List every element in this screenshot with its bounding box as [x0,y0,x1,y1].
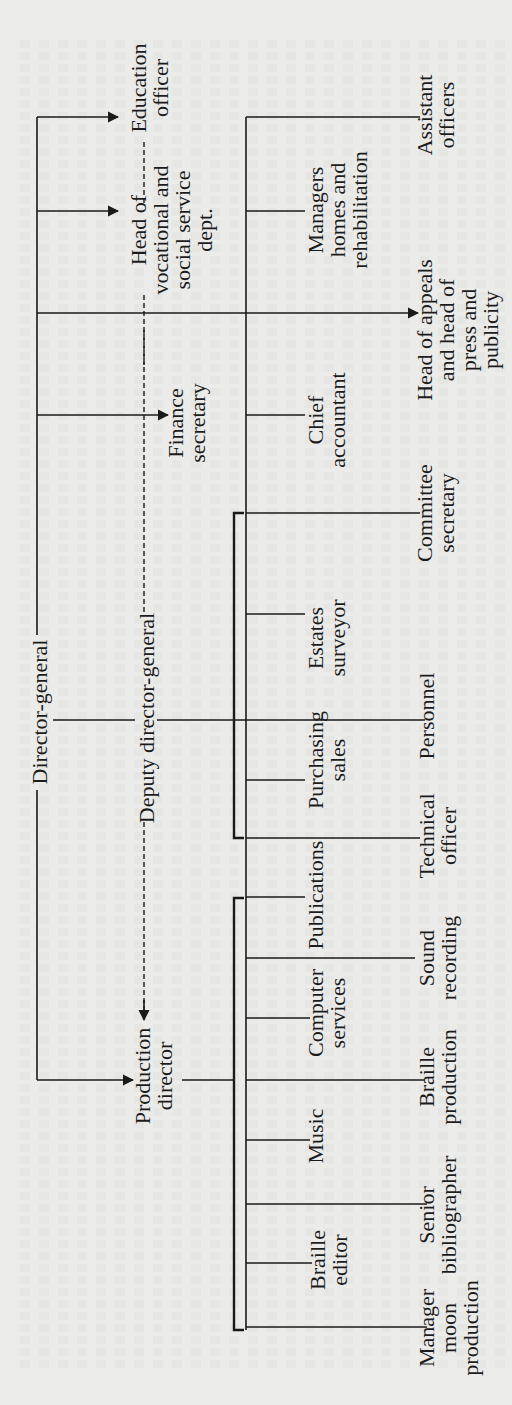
org-labels: Director-generalDeputy director-generalE… [27,43,503,1375]
estates-surveyor-label: Estatessurveyor [303,599,350,677]
director-general-label: Director-general [27,640,52,785]
assistant-officers-label: Assistantofficers [412,75,459,156]
computer-services-label: Computerservices [303,968,350,1057]
technical-officer-label: Technicalofficer [414,793,461,878]
education-officer-label: Educationofficer [126,43,173,132]
org-chart-diagram: Director-generalDeputy director-generalE… [0,0,512,1405]
senior-bibliographer-label: Seniorbibliographer [414,1155,461,1274]
managers-homes-label: Managershomes andrehabilitation [303,151,372,268]
finance-secretary-label: Financesecretary [163,383,210,462]
production-director-label: Productiondirector [130,1028,177,1125]
department-bus [182,117,246,1330]
org-chart-page: Director-generalDeputy director-generalE… [0,0,512,1405]
manager-moon-label: Managermoonproduction [414,1280,483,1375]
publications-label: Publications [303,841,328,950]
braille-editor-label: Brailleeditor [305,1230,352,1290]
personnel-label: Personnel [414,673,439,760]
committee-secretary-label: Committeesecretary [412,464,459,562]
deputy-director-general-label: Deputy director-general [134,613,159,823]
head-vocational-label: Head ofvocational andsocial servicedept. [126,166,217,295]
right-branches [246,117,427,1327]
music-label: Music [303,1108,328,1163]
sound-recording-label: Soundrecording [414,916,461,1000]
head-appeals-label: Head of appealsand head ofpress andpubli… [412,259,503,401]
braille-production-label: Brailleproduction [414,1029,461,1124]
purchasing-sales-label: Purchasingsales [303,711,350,809]
chief-accountant-label: Chiefaccountant [303,372,350,467]
